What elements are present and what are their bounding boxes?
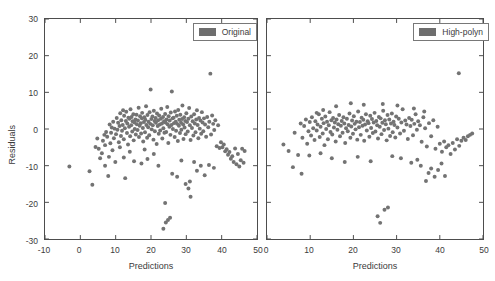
panel-high-polyn: 0 10 20 30 40 50 Predictions High-polyn xyxy=(262,0,495,281)
xtick-label: 0 xyxy=(61,246,97,255)
xtick-label: 30 xyxy=(168,246,204,255)
figure-container: 30 20 10 0 -10 -20 -30 -10 0 10 20 30 40… xyxy=(0,0,495,281)
ytick-label: -10 xyxy=(14,163,38,172)
ytick-label: 30 xyxy=(14,15,38,24)
axes-frame-original xyxy=(44,18,258,240)
xtick-label: 20 xyxy=(133,246,169,255)
ytick-label: 10 xyxy=(14,89,38,98)
xtick-label: 10 xyxy=(97,246,133,255)
xtick-label: 40 xyxy=(422,246,458,255)
xtick-label: 30 xyxy=(378,246,414,255)
scatter-plot-original xyxy=(45,19,257,239)
xtick-label: 10 xyxy=(291,246,327,255)
xtick-label: 20 xyxy=(335,246,371,255)
legend-high-polyn[interactable]: High-polyn xyxy=(413,23,489,41)
panel-original: 30 20 10 0 -10 -20 -30 -10 0 10 20 30 40… xyxy=(0,0,262,281)
xtick-label: 0 xyxy=(248,246,284,255)
xtick-label: 40 xyxy=(204,246,240,255)
legend-original[interactable]: Original xyxy=(193,23,257,41)
ytick-label: -30 xyxy=(14,237,38,246)
legend-label: High-polyn xyxy=(442,28,483,37)
legend-swatch-icon xyxy=(199,28,216,36)
ytick-label: -20 xyxy=(14,200,38,209)
scatter-plot-high-polyn xyxy=(267,19,483,239)
axes-frame-high-polyn xyxy=(266,18,484,240)
xtick-label: -10 xyxy=(26,246,62,255)
ytick-label: 20 xyxy=(14,52,38,61)
xtick-label: 50 xyxy=(466,246,495,255)
legend-label: Original xyxy=(222,28,251,37)
ytick-label: 0 xyxy=(14,126,38,135)
legend-swatch-icon xyxy=(419,28,436,36)
xaxis-title: Predictions xyxy=(305,262,445,271)
xaxis-title: Predictions xyxy=(81,262,221,271)
yaxis-title: Residuals xyxy=(8,95,17,165)
